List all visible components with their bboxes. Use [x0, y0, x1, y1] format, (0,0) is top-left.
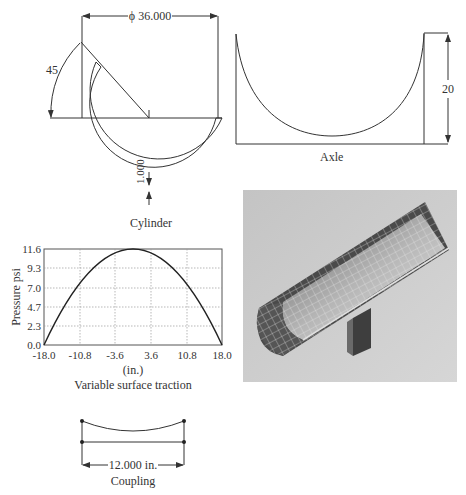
svg-text:11.6: 11.6 [22, 243, 41, 255]
y-axis-label: Pressure psi [9, 268, 23, 326]
svg-text:7.0: 7.0 [27, 282, 41, 294]
coupling-length-label: 12.000 in. [109, 458, 157, 472]
traction-chart: 11.6 9.3 7.0 4.7 2.3 0.0 -18.0 -10.8 -3.… [0, 235, 235, 395]
svg-text:4.7: 4.7 [27, 301, 41, 313]
cylinder-caption: Cylinder [130, 216, 172, 231]
diameter-dimension [82, 16, 218, 118]
angle-label: 45 [46, 63, 58, 77]
axle-height-label: 20 [442, 82, 454, 96]
svg-text:10.8: 10.8 [177, 349, 197, 361]
radial-line [81, 42, 149, 118]
x-tick-labels: -18.0 -10.8 -3.6 3.6 10.8 18.0 [33, 349, 233, 361]
cylinder-inner-arc [90, 67, 216, 167]
svg-text:-18.0: -18.0 [33, 349, 56, 361]
axle-drawing: 20 [220, 0, 466, 150]
coupling-drawing: 12.000 in. Coupling [40, 415, 220, 495]
coupling-curve [82, 421, 184, 431]
svg-text:3.6: 3.6 [144, 349, 158, 361]
axle-curve [236, 34, 424, 136]
x-unit-label: (in.) [123, 363, 143, 377]
axle-caption: Axle [320, 150, 343, 165]
svg-text:2.3: 2.3 [27, 320, 41, 332]
svg-text:18.0: 18.0 [212, 349, 232, 361]
svg-text:9.3: 9.3 [27, 262, 41, 274]
thickness-label: 1.000 [134, 159, 146, 184]
svg-text:-10.8: -10.8 [69, 349, 92, 361]
angle-arc [51, 43, 80, 117]
cylinder-drawing: ϕ 36.000 45 1.000 [0, 0, 240, 235]
y-tick-labels: 11.6 9.3 7.0 4.7 2.3 0.0 [22, 243, 41, 351]
svg-text:-3.6: -3.6 [106, 349, 124, 361]
pressure-curve [44, 249, 222, 345]
coupling-caption: Coupling [111, 474, 156, 488]
mesh-view [243, 190, 457, 382]
diameter-label: ϕ 36.000 [129, 9, 171, 23]
chart-caption: Variable surface traction [74, 378, 191, 392]
